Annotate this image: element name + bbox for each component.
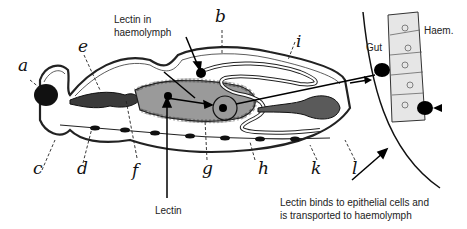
label-d: d: [77, 160, 88, 177]
annotation-haem: Haem.: [424, 24, 453, 37]
organ-a: [34, 84, 58, 106]
label-g: g: [202, 160, 213, 177]
annotation-gut: Gut: [366, 41, 382, 54]
label-e: e: [78, 38, 88, 55]
label-c: c: [33, 160, 43, 177]
hindgut: [258, 96, 340, 119]
insect-lectin-diagram: a b c d e f g h i k l Lectin in haemolym…: [0, 0, 467, 229]
label-k: k: [311, 160, 321, 177]
annotation-lectin: Lectin: [155, 204, 182, 217]
foregut: [70, 92, 140, 107]
label-l: l: [352, 160, 357, 177]
lectin-dot-wall: [219, 104, 227, 112]
label-a: a: [18, 57, 28, 74]
lectin-dot-gut-side: [374, 63, 390, 77]
label-h: h: [258, 160, 269, 177]
annotation-lectin-binds: Lectin binds to epithelial cells and is …: [280, 196, 429, 222]
annotation-lectin-in-haemolymph: Lectin in haemolymph: [114, 13, 171, 39]
insect-anatomy-drawing: [0, 0, 467, 229]
lectin-dot-haemolymph: [196, 68, 206, 78]
label-b: b: [215, 8, 226, 25]
lectin-dot-haem-side: [417, 101, 433, 115]
label-i: i: [296, 33, 301, 50]
label-f: f: [132, 162, 138, 179]
